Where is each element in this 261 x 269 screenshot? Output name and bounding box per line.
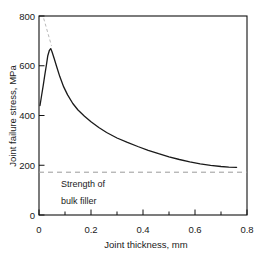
y-tick-label-0: 0: [30, 210, 35, 221]
annotation-strength-of: Strength of: [61, 179, 106, 189]
annotation-bulk-filler: bulk filler: [61, 196, 97, 206]
y-tick-label-600: 600: [19, 60, 35, 71]
joint-failure-stress-chart: 800 600 400 200 0 0 0.2 0.4 0.6 0.8 Join…: [0, 0, 261, 269]
y-axis-title: Joint failure stress, MPa: [7, 65, 18, 167]
x-tick-label-0-8: 0.8: [240, 224, 253, 235]
x-axis-title: Joint thickness, mm: [104, 239, 187, 250]
y-tick-label-800: 800: [19, 11, 35, 22]
x-tick-label-0-4: 0.4: [136, 224, 149, 235]
figure-container: 800 600 400 200 0 0 0.2 0.4 0.6 0.8 Join…: [0, 0, 261, 269]
y-tick-label-400: 400: [19, 110, 35, 121]
x-tick-label-0-2: 0.2: [84, 224, 97, 235]
x-tick-label-0: 0: [36, 224, 41, 235]
x-tick-label-0-6: 0.6: [188, 224, 201, 235]
y-tick-label-200: 200: [19, 160, 35, 171]
